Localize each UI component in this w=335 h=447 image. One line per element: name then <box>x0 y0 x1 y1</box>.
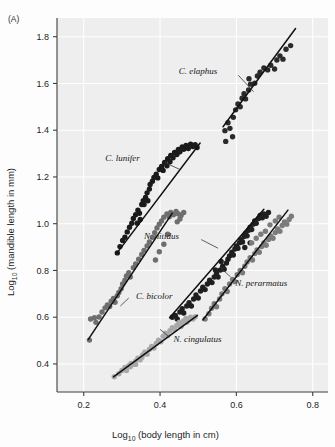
data-point <box>215 274 220 279</box>
y-tick-label: 1.8 <box>36 32 49 42</box>
data-point <box>181 310 186 315</box>
data-point <box>230 134 235 139</box>
data-point <box>196 295 201 300</box>
data-point <box>266 210 271 215</box>
series-label: C. bicolor <box>136 291 173 301</box>
y-tick-label: 1.4 <box>36 125 49 135</box>
data-point <box>270 235 275 240</box>
y-tick-label: 1.6 <box>36 79 49 89</box>
data-point <box>227 126 232 131</box>
data-point <box>129 221 134 226</box>
data-point <box>244 233 249 238</box>
scatter-plot: 0.40.60.81.01.21.41.61.80.20.40.60.8 C. … <box>0 0 335 447</box>
data-point <box>242 245 247 250</box>
x-tick-label: 0.8 <box>306 400 319 410</box>
data-point <box>155 175 160 180</box>
x-title-rest: (body length in cm) <box>135 429 218 440</box>
data-point <box>283 47 288 52</box>
figure-panel-a: 0.40.60.81.01.21.41.61.80.20.40.60.8 C. … <box>0 0 335 447</box>
panel-label: (A) <box>8 14 20 24</box>
data-point <box>240 239 245 244</box>
data-point <box>258 232 263 237</box>
y-tick-label: 1.0 <box>36 219 49 229</box>
data-point <box>249 240 254 245</box>
data-point <box>189 303 194 308</box>
data-point <box>272 66 277 71</box>
series-label: C. lunifer <box>105 153 140 163</box>
y-title-rest: (mandible length in mm) <box>5 168 16 273</box>
data-point <box>96 314 101 319</box>
data-point <box>161 242 166 247</box>
data-point <box>222 128 227 133</box>
data-point <box>267 222 272 227</box>
data-point <box>145 198 150 203</box>
data-point <box>209 280 214 285</box>
data-point <box>202 287 207 292</box>
data-point <box>137 210 142 215</box>
series-label: N. cingulatus <box>173 334 222 344</box>
data-point <box>157 249 162 254</box>
data-point <box>160 168 165 173</box>
data-point <box>246 76 251 81</box>
data-point <box>153 257 158 262</box>
data-point <box>125 229 130 234</box>
x-tick-label: 0.2 <box>77 400 90 410</box>
data-point <box>263 228 268 233</box>
data-point <box>254 235 259 240</box>
data-point <box>181 210 186 215</box>
data-point <box>92 315 97 320</box>
series-label: N. nitidus <box>143 231 180 241</box>
data-point <box>177 216 182 221</box>
y-tick-label: 1.2 <box>36 172 49 182</box>
y-title-main: Log <box>5 280 16 296</box>
x-title-main: Log <box>112 429 128 440</box>
data-point <box>249 227 254 232</box>
data-point <box>235 246 240 251</box>
data-point <box>280 56 285 61</box>
series-label: N. perarmatus <box>234 278 288 288</box>
data-point <box>263 243 268 248</box>
data-point <box>289 214 294 219</box>
data-point <box>288 43 293 48</box>
y-tick-label: 0.4 <box>36 359 49 369</box>
x-tick-label: 0.4 <box>154 400 167 410</box>
data-point <box>277 228 282 233</box>
data-point <box>147 186 152 191</box>
data-point <box>223 139 228 144</box>
x-tick-label: 0.6 <box>230 400 243 410</box>
y-tick-label: 0.6 <box>36 312 49 322</box>
data-point <box>231 252 236 257</box>
y-tick-label: 0.8 <box>36 266 49 276</box>
data-point <box>284 221 289 226</box>
data-point <box>254 221 259 226</box>
series-label: C. elaphus <box>179 66 218 76</box>
